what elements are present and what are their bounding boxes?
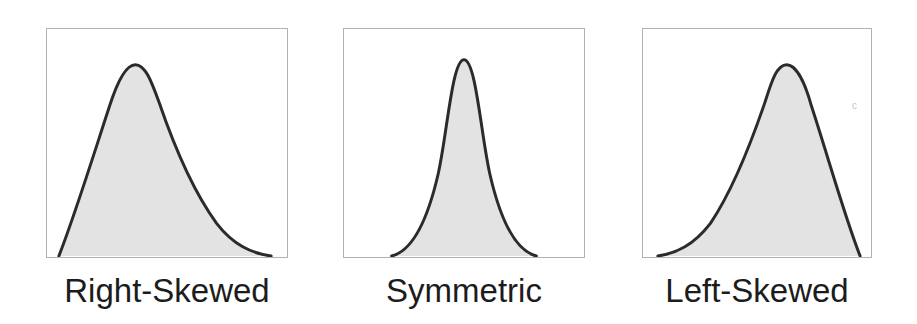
symmetric-distribution-curve xyxy=(392,60,537,256)
symmetric-curve-svg xyxy=(344,29,584,257)
left-skewed-curve-svg xyxy=(643,29,871,257)
right-skewed-curve-svg xyxy=(47,29,287,257)
panel-symmetric: Symmetric xyxy=(343,28,585,258)
right-skewed-distribution-curve xyxy=(59,65,271,256)
symmetric-label: Symmetric xyxy=(343,271,585,311)
left-skewed-distribution-curve xyxy=(658,65,860,256)
panel-right-skewed: Right-Skewed xyxy=(46,28,288,258)
skewness-figure: Right-Skewed Symmetric Left-Skewed c xyxy=(0,0,917,324)
distribution-box-symmetric xyxy=(343,28,585,258)
right-skewed-label: Right-Skewed xyxy=(46,271,288,311)
distribution-box-right-skewed xyxy=(46,28,288,258)
scan-artifact-speck: c xyxy=(852,100,857,111)
panel-left-skewed: Left-Skewed xyxy=(642,28,872,258)
distribution-box-left-skewed xyxy=(642,28,872,258)
left-skewed-label: Left-Skewed xyxy=(642,271,872,311)
